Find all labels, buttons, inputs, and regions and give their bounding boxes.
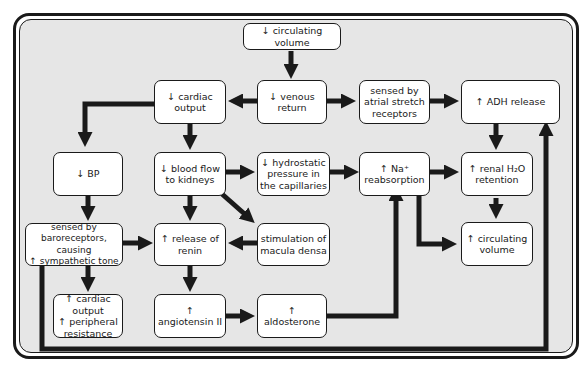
node-label: ↓ venous return: [269, 91, 314, 114]
node-adh-release-up: ↑ ADH release: [461, 80, 560, 124]
node-label: ↑ cardiac output ↑ peripheral resistance: [56, 293, 120, 339]
node-blood-flow-kidneys-down: ↓ blood flow to kidneys: [154, 152, 226, 196]
node-aldosterone-up: ↑ aldosterone: [257, 294, 327, 338]
node-label: ↓ blood flow to kidneys: [160, 163, 220, 186]
node-atrial-stretch-receptors: sensed by atrial stretch receptors: [359, 80, 430, 124]
node-label: ↑ ADH release: [476, 96, 546, 108]
node-hydrostatic-pressure-down: ↓ hydrostatic pressure in the capillarie…: [257, 152, 330, 196]
node-bp-down: ↓ BP: [53, 152, 123, 196]
node-label: ↓ cardiac output: [167, 91, 212, 114]
node-label: sensed by baroreceptors, causing ↑ sympa…: [28, 222, 120, 268]
node-baroreceptors-sympathetic: sensed by baroreceptors, causing ↑ sympa…: [25, 223, 123, 266]
arrow-cardiac-bp: [85, 104, 154, 138]
node-label: ↑ release of renin: [161, 233, 219, 256]
node-na-reabsorption-up: ↑ Na⁺ reabsorption: [359, 152, 430, 196]
node-renin-release-up: ↑ release of renin: [154, 223, 226, 266]
node-circulating-volume-down: ↓ circulating volume: [243, 23, 341, 50]
arrow-na-circvol: [419, 196, 448, 244]
node-venous-return-down: ↓ venous return: [257, 80, 327, 124]
node-label: ↓ BP: [76, 168, 99, 180]
node-label: stimulation of macula densa: [260, 233, 326, 256]
node-label: ↓ hydrostatic pressure in the capillarie…: [260, 157, 327, 192]
node-angiotensin-ii-up: ↑ angiotensin II: [154, 294, 226, 338]
node-label: ↓ circulating volume: [246, 25, 338, 48]
arrow-aldo-na: [327, 195, 396, 316]
node-label: sensed by atrial stretch receptors: [364, 85, 425, 120]
node-renal-h2o-retention-up: ↑ renal H₂O retention: [461, 152, 533, 196]
node-label: ↑ aldosterone: [260, 305, 324, 328]
node-label: ↑ Na⁺ reabsorption: [364, 163, 424, 186]
node-cardiac-output-down: ↓ cardiac output: [154, 80, 226, 124]
node-cardiac-output-peripheral-resistance-up: ↑ cardiac output ↑ peripheral resistance: [53, 294, 123, 338]
arrow-bloodflow-macula: [222, 194, 248, 217]
node-label: ↑ circulating volume: [467, 233, 528, 256]
node-label: ↑ angiotensin II: [157, 305, 223, 328]
node-macula-densa-stimulation: stimulation of macula densa: [257, 223, 330, 266]
node-label: ↑ renal H₂O retention: [469, 163, 525, 186]
node-circulating-volume-up: ↑ circulating volume: [461, 222, 533, 266]
